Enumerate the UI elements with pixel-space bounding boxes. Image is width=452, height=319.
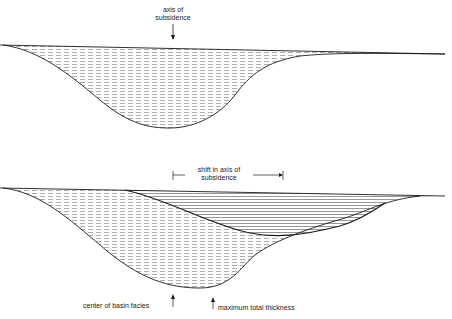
center-of-basin-facies-label: center of basin facies	[83, 302, 149, 310]
axis-of-subsidence-label: axis of subsidence	[148, 6, 198, 22]
shift-line-1: shift in axis of	[184, 166, 254, 174]
shift-line-2: subsidence	[184, 174, 254, 182]
label-line-2: subsidence	[148, 14, 198, 22]
shift-label: shift in axis of subsidence	[184, 166, 254, 182]
label-line-1: axis of	[148, 6, 198, 14]
maximum-total-thickness-label: maximum total thickness	[218, 304, 295, 312]
bottom-basin	[0, 171, 445, 309]
top-basin	[0, 24, 445, 128]
basin-cross-sections	[0, 0, 452, 319]
